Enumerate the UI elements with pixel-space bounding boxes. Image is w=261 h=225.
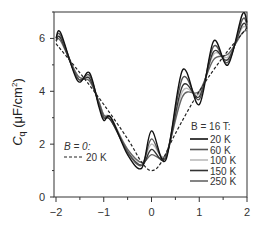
legend-entry-label: 20 K bbox=[210, 134, 231, 145]
y-tick-label: 6 bbox=[39, 32, 45, 44]
y-axis-label: Cq (μF/cm2) bbox=[10, 78, 27, 146]
y-axis: 0246 bbox=[39, 12, 54, 203]
capacitance-chart: 0246 −2−1012 Cq (μF/cm2) B = 0: 20 K B =… bbox=[0, 0, 261, 225]
y-tick-label: 4 bbox=[39, 85, 45, 97]
x-tick-label: 0 bbox=[148, 206, 154, 218]
legend-entry-label: 150 K bbox=[210, 166, 236, 177]
y-tick-label: 0 bbox=[39, 191, 45, 203]
x-tick-label: −1 bbox=[97, 206, 110, 218]
legend-entry-label: 100 K bbox=[210, 155, 236, 166]
x-tick-label: −2 bbox=[50, 206, 63, 218]
legend-b0: B = 0: 20 K bbox=[64, 141, 107, 163]
legend-b0-title: B = 0: bbox=[64, 141, 91, 152]
y-tick-label: 2 bbox=[39, 138, 45, 150]
x-axis: −2−1012 bbox=[50, 197, 250, 218]
x-tick-label: 2 bbox=[244, 206, 250, 218]
legend-b16: B = 16 T: 20 K60 K100 K150 K250 K bbox=[190, 121, 236, 187]
legend-b0-entry: 20 K bbox=[86, 152, 107, 163]
legend-entry-label: 250 K bbox=[210, 176, 236, 187]
legend-b16-title: B = 16 T: bbox=[191, 121, 231, 132]
x-tick-label: 1 bbox=[196, 206, 202, 218]
legend-entry-label: 60 K bbox=[210, 145, 231, 156]
